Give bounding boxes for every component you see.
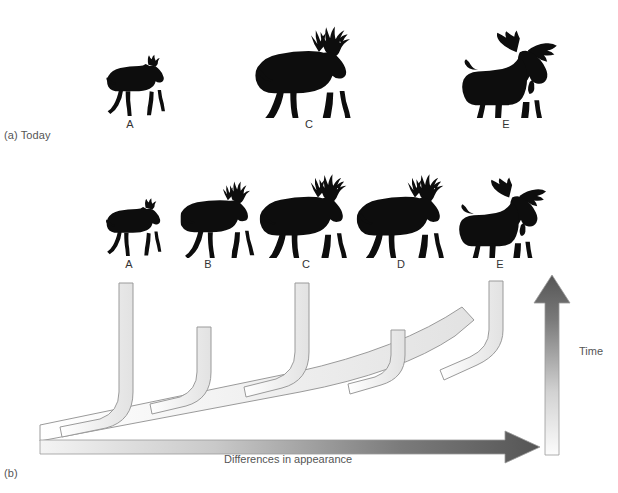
- antlered-deer-silhouette-icon: [180, 178, 260, 258]
- panel-b-caption: (b): [4, 467, 18, 479]
- panel-a-animal-E: [455, 20, 567, 118]
- panel-b-animal-D: [355, 172, 453, 258]
- panel-b-animal-B: [180, 178, 260, 258]
- panel-b-animal-A: [100, 190, 166, 258]
- panel-a-label-E: E: [494, 118, 518, 130]
- panel-b-label-A: A: [117, 258, 141, 270]
- panel-b-label-E: E: [488, 258, 512, 270]
- large-antlered-deer-silhouette-icon: [355, 172, 453, 258]
- evolutionary-tree: [40, 281, 503, 441]
- differences-axis-label: Differences in appearance: [224, 453, 352, 465]
- panel-b-label-B: B: [196, 258, 220, 270]
- panel-a-caption: (a) Today: [4, 129, 51, 141]
- moose-silhouette-icon: [452, 168, 556, 258]
- large-antlered-deer-silhouette-icon: [258, 172, 356, 258]
- panel-b-animal-C: [258, 172, 356, 258]
- panel-a-animal-C: [253, 24, 361, 118]
- small-deer-silhouette-icon: [100, 46, 170, 118]
- large-antlered-deer-silhouette-icon: [253, 24, 361, 118]
- panel-a-label-C: C: [297, 118, 321, 130]
- small-deer-silhouette-icon: [100, 190, 166, 258]
- time-axis-arrow: [534, 275, 570, 455]
- panel-a-animal-A: [100, 46, 170, 118]
- time-axis-label: Time: [579, 345, 603, 357]
- panel-b-animal-E: [452, 168, 556, 258]
- moose-silhouette-icon: [455, 20, 567, 118]
- panel-b-label-D: D: [389, 258, 413, 270]
- evolution-figure: A C E (a) Today A B C D: [0, 0, 618, 493]
- panel-a-label-A: A: [118, 118, 142, 130]
- panel-b-label-C: C: [294, 258, 318, 270]
